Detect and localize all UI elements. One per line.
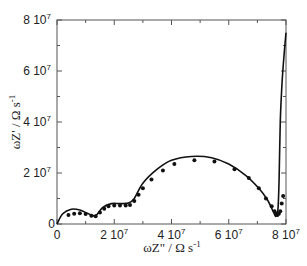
data-point — [141, 186, 145, 190]
data-point — [132, 199, 136, 203]
data-point — [257, 186, 261, 190]
data-point — [98, 211, 102, 215]
x-tick-label: 2 107 — [100, 227, 128, 242]
data-point — [172, 162, 176, 166]
data-point — [247, 176, 251, 180]
data-point — [278, 209, 282, 213]
y-axis-ticks — [57, 20, 286, 224]
data-point — [232, 167, 236, 171]
data-point — [161, 168, 165, 172]
axes-box — [57, 20, 286, 224]
y-tick-label: 4 107 — [23, 114, 51, 129]
y-axis-title: ωZ' / Ω s-1 — [7, 95, 23, 149]
data-point — [107, 204, 111, 208]
data-point — [84, 212, 88, 216]
data-point — [124, 203, 128, 207]
data-point — [72, 212, 76, 216]
x-tick-label: 6 107 — [215, 227, 243, 242]
nyquist-chart: 02 1074 1076 1078 107 02 1074 1076 1078 … — [0, 0, 307, 266]
y-tick-label: 8 107 — [23, 12, 51, 27]
y-axis-tick-labels: 02 1074 1076 1078 107 — [23, 12, 55, 231]
data-point — [149, 177, 153, 181]
fit-line-path — [57, 33, 286, 224]
data-point — [89, 214, 93, 218]
data-point — [112, 203, 116, 207]
experimental-points — [66, 158, 285, 218]
data-point — [78, 211, 82, 215]
plot-frame — [57, 20, 286, 224]
data-point — [192, 158, 196, 162]
data-point — [94, 214, 98, 218]
data-point — [280, 202, 284, 206]
data-point — [102, 207, 106, 211]
data-point — [264, 197, 268, 201]
data-point — [137, 193, 141, 197]
data-point — [270, 204, 274, 208]
y-tick-label: 6 107 — [23, 63, 51, 78]
data-point — [212, 160, 216, 164]
x-tick-label: 8 107 — [272, 227, 300, 242]
data-point — [66, 213, 70, 217]
y-tick-label: 0 — [48, 217, 55, 231]
data-point — [128, 203, 132, 207]
data-point — [118, 203, 122, 207]
x-axis-title: ωZ" / Ω s-1 — [143, 239, 200, 255]
y-tick-label: 2 107 — [23, 165, 51, 180]
x-axis-ticks — [57, 20, 286, 224]
data-point — [281, 194, 285, 198]
fit-curve — [57, 33, 286, 224]
